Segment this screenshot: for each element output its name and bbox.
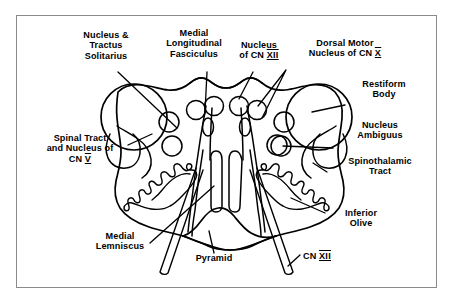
pyramid-base (183, 236, 276, 250)
label-pyramid: Pyramid (185, 253, 243, 263)
medial-lemniscus-envelope-right (250, 150, 261, 236)
leader-dorsal-motor-cn10 (258, 70, 286, 118)
roman-numeral-xii-root: XII (319, 251, 331, 261)
inferior-olive-right (256, 164, 329, 211)
dorsal-motor-nucleus-left (187, 101, 206, 120)
label-spinal-tract-text: Spinal Tract and Nucleus of CN (47, 133, 114, 164)
roman-numeral-v: V (85, 154, 91, 164)
label-cn12-root: CN XII (303, 251, 363, 261)
leader-nucleus-cn12 (239, 72, 253, 99)
label-nucleus-ambiguus: Nucleus Ambiguus (337, 120, 423, 141)
label-medial-longitudinal-fasciculus: Medial Longitudinal Fasciculus (152, 28, 236, 59)
label-restiform-body: Restiform Body (348, 79, 420, 100)
roman-numeral-xii-top: XII (267, 50, 279, 60)
label-medial-lemniscus: Medial Lemniscus (82, 231, 158, 252)
roman-numeral-x: X (375, 48, 381, 58)
label-nucleus-cn12-top: Nucleus of CN XII (228, 40, 290, 61)
label-spinal-tract-cn5: Spinal Tract and Nucleus of CN V (30, 133, 130, 164)
leader-restiform-body (312, 105, 345, 112)
label-dorsal-motor-text: Dorsal Motor Nucleus of CN (309, 38, 375, 58)
hypoglossal-nucleus-left (205, 97, 224, 116)
leader-medial-lemniscus (150, 186, 214, 243)
leader-nucleus-tractus-solitarius (118, 72, 177, 128)
label-spinothalamic-tract: Spinothalamic Tract (330, 156, 430, 177)
medial-lemniscus-envelope-left (192, 150, 203, 236)
leader-cn12-root (288, 255, 300, 266)
spinal-trigeminal-nucleus-left (162, 136, 182, 156)
label-nucleus-tractus-solitarius: Nucleus & Tractus Solitarius (62, 30, 150, 61)
solitary-nucleus-left (159, 112, 179, 132)
inferior-olive-right-fold (263, 174, 301, 200)
central-tract-left (211, 151, 222, 212)
label-cn12-root-text: CN (303, 251, 319, 261)
figure-canvas: Nucleus & Tractus Solitarius Medial Long… (0, 0, 453, 304)
inferior-olive-left-fold (152, 174, 190, 200)
inferior-olive-left (124, 164, 197, 211)
dorsal-motor-nucleus-right (248, 101, 267, 120)
label-dorsal-motor-nucleus-cn10: Dorsal Motor Nucleus of CN X (290, 38, 400, 59)
cn12-rootlets-right (250, 168, 293, 274)
central-tract-right (229, 151, 242, 212)
fourth-ventricle-floor (190, 78, 262, 88)
leader-inferior-olive (291, 198, 325, 213)
solitary-nucleus-right (274, 112, 294, 132)
label-inferior-olive: Inferior Olive (328, 208, 394, 229)
leader-pyramid (209, 231, 214, 253)
